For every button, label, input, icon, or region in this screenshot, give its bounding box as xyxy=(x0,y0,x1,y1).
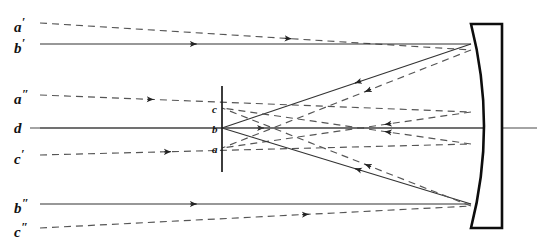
c-dprime-refl xyxy=(222,108,471,206)
ray-label-prime: ″ xyxy=(22,196,29,210)
ray-label-b-prime: b′ xyxy=(14,37,26,56)
ray-label-prime: ′ xyxy=(22,15,26,29)
ray-label-base: b xyxy=(14,40,22,56)
ray-label-base: a xyxy=(14,91,22,107)
object-point-a: a xyxy=(212,144,218,155)
ray-label-a-dprime: a″ xyxy=(14,88,29,107)
a-dprime-refl-arrow xyxy=(385,124,391,125)
c-dprime-refl-arrow xyxy=(365,164,371,166)
concave-mirror xyxy=(471,24,502,228)
incoming-rays-group xyxy=(40,23,485,228)
ray-label-c-dprime: c″ xyxy=(14,221,28,240)
ray-label-b-dprime: b″ xyxy=(14,197,29,216)
optics-diagram-canvas xyxy=(0,0,537,247)
b-prime-refl-arrow xyxy=(355,81,361,83)
ray-label-base: b xyxy=(14,200,22,216)
a-dprime-in xyxy=(40,95,471,112)
a-prime-refl xyxy=(222,50,471,148)
ray-label-prime: ′ xyxy=(22,36,26,50)
a-prime-refl-arrow xyxy=(365,89,371,91)
c-prime-refl xyxy=(222,108,471,144)
ray-label-prime: ″ xyxy=(21,220,28,234)
ray-label-prime: ″ xyxy=(22,87,29,101)
ray-label-base: c xyxy=(14,224,21,240)
a-prime-in xyxy=(40,23,471,50)
ray-label-c-prime: c′ xyxy=(14,148,25,167)
ray-label-d: d xyxy=(14,121,22,136)
a-dprime-refl xyxy=(222,112,471,148)
object-point-c: c xyxy=(212,104,217,115)
b-dprime-refl xyxy=(222,128,471,204)
ray-label-base: a xyxy=(14,19,22,35)
c-dprime-in xyxy=(40,206,471,228)
ray-label-base: c xyxy=(14,151,21,167)
reflected-rays-group xyxy=(222,44,471,206)
ray-label-base: d xyxy=(14,120,22,136)
b-dprime-refl-arrow xyxy=(355,169,361,171)
ray-label-prime: ′ xyxy=(21,147,25,161)
c-prime-refl-arrow xyxy=(385,132,391,133)
object-point-b: b xyxy=(212,124,218,135)
c-prime-in xyxy=(40,144,471,155)
b-prime-refl xyxy=(222,44,471,128)
ray-diagram-figure: a′b′a″dc′b″c″ cba xyxy=(0,0,537,247)
ray-label-a-prime: a′ xyxy=(14,16,26,35)
